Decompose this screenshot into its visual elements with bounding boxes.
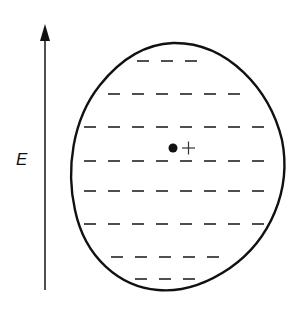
negative-charge-rows [84,61,264,279]
center-of-charge-dot [169,144,178,153]
field-arrow [40,24,50,290]
electric-field-diagram [0,0,301,311]
arrowhead-icon [40,24,50,41]
conductor-outline [71,43,284,290]
plus-sign-icon [182,142,195,155]
field-label-e: E [16,150,27,170]
